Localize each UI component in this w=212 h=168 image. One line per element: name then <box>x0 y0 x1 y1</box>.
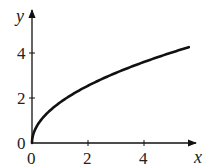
x-tick-label-0: 0 <box>27 149 36 168</box>
y-tick-label-2: 2 <box>17 89 26 108</box>
y-tick-label-4: 4 <box>17 44 26 63</box>
y-tick-label-0: 0 <box>17 134 26 153</box>
chart: 0 0 2 4 2 4 y x <box>0 0 212 168</box>
x-tick-label-4: 4 <box>139 149 148 168</box>
data-curve <box>32 47 189 143</box>
y-axis-label: y <box>14 6 24 26</box>
x-axis-label: x <box>193 147 202 167</box>
x-tick-label-2: 2 <box>83 149 92 168</box>
